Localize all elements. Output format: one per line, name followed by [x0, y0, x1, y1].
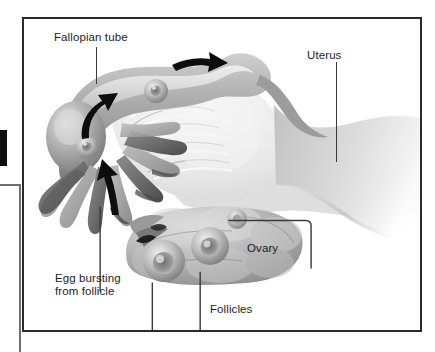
follicle-right: [191, 227, 229, 265]
screenshot-root: Fallopian tube Uterus Ovary Follicles Eg…: [0, 0, 435, 352]
page-edge-rule-horizontal: [0, 184, 21, 186]
label-follicles-text: Follicles: [210, 303, 252, 316]
label-egg-bursting: Egg bursting from follicle: [55, 272, 121, 298]
leader-uterus: [336, 62, 337, 162]
label-egg-bursting-line1: Egg bursting: [55, 272, 121, 285]
label-follicles: Follicles: [210, 303, 252, 316]
page-edge-rule-vertical: [19, 184, 21, 352]
follicle-top: [227, 209, 247, 229]
label-uterus-text: Uterus: [307, 49, 341, 62]
page-edge-marker: [0, 130, 7, 166]
label-fallopian-tube-text: Fallopian tube: [54, 31, 128, 44]
leader-fallopian-tube: [96, 47, 97, 84]
figure-inner: Fallopian tube Uterus Ovary Follicles Eg…: [24, 19, 420, 330]
follicle-bursting: [143, 240, 185, 282]
label-fallopian-tube: Fallopian tube: [54, 31, 128, 44]
label-ovary-text: Ovary: [247, 242, 278, 255]
figure-frame: Fallopian tube Uterus Ovary Follicles Eg…: [22, 17, 422, 332]
label-ovary: Ovary: [247, 242, 278, 255]
label-egg-bursting-line2: from follicle: [55, 285, 121, 298]
label-uterus: Uterus: [307, 49, 341, 62]
